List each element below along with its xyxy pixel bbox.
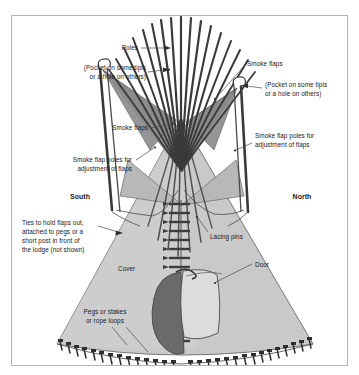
label-flap-poles-right-line1: Smoke flap poles for [255,132,355,141]
label-smoke-flaps-top: Smoke flaps [247,60,347,69]
label-smoke-flaps-left: Smoke flaps [88,124,148,133]
label-pegs-line1: Pegs or stakes [62,308,148,317]
label-flap-poles-left-line2: adjustment of flaps [20,165,132,174]
label-poles: Poles [78,44,138,53]
tipi-diagram-figure: Poles (Pocket on some tipis or a hole on… [0,0,359,375]
label-ties-line3: short post in front of [22,237,132,246]
label-lacing-pins: Lacing pins [210,233,280,242]
label-ties-line1: Ties to hold flaps out, [22,219,132,228]
label-pocket-left-line2: or a hole on others) [20,73,146,82]
label-flap-poles-right-line2: adjustment of flaps [255,141,355,150]
label-ties-line4: the lodge (not shown) [22,246,132,255]
label-door: Door [255,261,295,270]
label-pegs-line2: or rope loops [62,317,148,326]
label-cover: Cover [118,265,158,274]
label-ties-line2: attached to pegs or a [22,228,132,237]
label-pocket-right-line1: (Pocket on some tipis [265,81,357,90]
label-flap-poles-left-line1: Smoke flap poles for [20,156,132,165]
label-north: North [272,193,332,202]
label-pocket-right-line2: or a hole on others) [265,90,357,99]
label-south: South [50,193,110,202]
label-pocket-left-line1: (Pocket on some tipis [20,64,146,73]
